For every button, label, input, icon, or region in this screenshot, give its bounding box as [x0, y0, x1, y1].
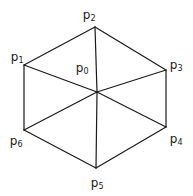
- vertex-label-p2: p2: [83, 9, 96, 21]
- edge-p0-p5: [96, 92, 97, 168]
- vertex-label-subscript-p2: 2: [90, 14, 95, 23]
- edge-p2-p3: [95, 27, 166, 70]
- hexagon-mesh-svg: [0, 0, 193, 196]
- vertex-label-base-p5: p: [91, 176, 99, 190]
- vertex-label-subscript-p1: 1: [18, 56, 23, 65]
- edge-p0-p4: [97, 92, 166, 127]
- vertex-label-subscript-p4: 4: [177, 138, 182, 147]
- vertex-label-p5: p5: [91, 177, 104, 189]
- edges-group: [24, 27, 166, 168]
- vertex-label-p6: p6: [10, 135, 23, 147]
- vertex-label-p0: p0: [76, 62, 89, 74]
- vertex-label-base-p0: p: [76, 61, 84, 75]
- vertex-label-base-p3: p: [170, 58, 178, 72]
- vertex-label-base-p1: p: [11, 50, 19, 64]
- edge-p0-p2: [95, 27, 97, 92]
- vertex-label-subscript-p5: 5: [98, 182, 103, 191]
- edge-p4-p5: [96, 127, 166, 168]
- vertex-label-p1: p1: [11, 51, 24, 63]
- vertex-label-subscript-p3: 3: [177, 64, 182, 73]
- edge-p0-p3: [97, 70, 166, 92]
- vertex-label-p3: p3: [170, 59, 183, 71]
- vertex-label-subscript-p6: 6: [17, 140, 22, 149]
- vertex-label-subscript-p0: 0: [83, 67, 88, 76]
- vertex-label-p4: p4: [170, 133, 183, 145]
- hexagon-diagram: p0p1p2p3p4p5p6: [0, 0, 193, 196]
- edge-p1-p2: [24, 27, 95, 65]
- edge-p0-p6: [24, 92, 97, 130]
- vertex-label-base-p4: p: [170, 132, 178, 146]
- edge-p5-p6: [24, 130, 96, 168]
- vertex-label-base-p6: p: [10, 134, 18, 148]
- vertex-label-base-p2: p: [83, 8, 91, 22]
